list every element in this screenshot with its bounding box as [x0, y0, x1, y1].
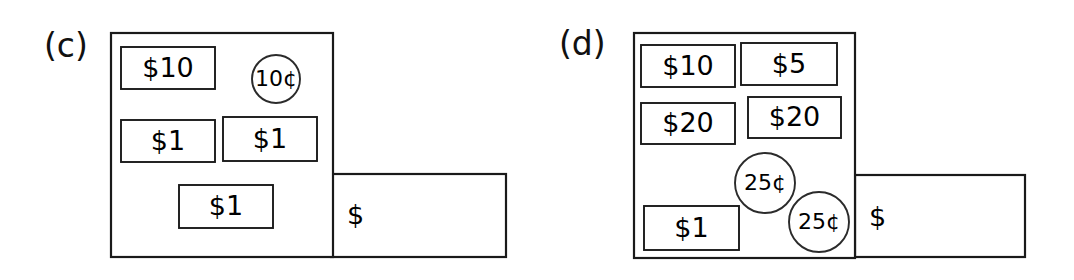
- bill-denomination-label: $20: [769, 101, 821, 132]
- figure-svg: (c)$$10$1$1$110¢(d)$$10$5$20$20$125¢25¢: [0, 0, 1074, 280]
- figure-canvas: (c)$$10$1$1$110¢(d)$$10$5$20$20$125¢25¢: [0, 0, 1074, 280]
- bill-denomination-label: $10: [662, 50, 714, 81]
- bill-denomination-label: $1: [674, 212, 708, 243]
- bill-denomination-label: $1: [253, 123, 287, 154]
- panel-c: (c)$$10$1$1$110¢: [44, 26, 506, 257]
- bill-denomination-label: $10: [142, 52, 194, 83]
- coin-denomination-label: 10¢: [255, 66, 297, 91]
- side-compartment-currency-label: $: [347, 199, 364, 230]
- panel-label: (d): [559, 24, 606, 63]
- bill-denomination-label: $5: [772, 48, 806, 79]
- panel-d: (d)$$10$5$20$20$125¢25¢: [559, 24, 1025, 258]
- bill-denomination-label: $1: [209, 190, 243, 221]
- panel-label: (c): [44, 26, 88, 65]
- bill-denomination-label: $20: [662, 107, 714, 138]
- bill-denomination-label: $1: [151, 125, 185, 156]
- side-compartment-currency-label: $: [869, 201, 886, 232]
- coin-denomination-label: 25¢: [798, 209, 840, 234]
- coin-denomination-label: 25¢: [744, 170, 786, 195]
